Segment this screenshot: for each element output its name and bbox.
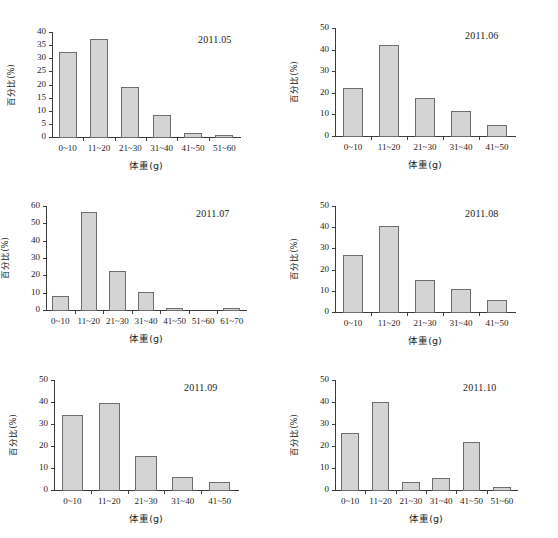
- bar: [415, 98, 436, 137]
- x-axis-tick: [443, 137, 444, 140]
- chart-panel-2011-07: 2011.070102030405060百分比(%)0~1011~2021~30…: [0, 178, 279, 358]
- y-axis-tick-label: 0: [303, 131, 329, 140]
- y-axis-tick-label: 5: [20, 119, 46, 128]
- y-axis-tick: [332, 93, 335, 94]
- bar: [138, 292, 155, 311]
- chart-panel-2011-06: 2011.0601020304050百分比(%)0~1011~2021~3031…: [279, 0, 558, 178]
- y-axis-tick: [49, 111, 52, 112]
- bar: [341, 433, 359, 491]
- bar: [379, 45, 400, 137]
- bar: [166, 308, 183, 311]
- x-axis-title: 体重(g): [106, 158, 186, 172]
- bar: [135, 456, 156, 491]
- x-axis-title: 体重(g): [385, 333, 465, 347]
- y-axis-tick-label: 20: [303, 88, 329, 97]
- plot-area: 2011.1001020304050百分比(%)0~1011~2021~3031…: [279, 358, 558, 538]
- y-axis-tick: [332, 114, 335, 115]
- x-axis-tick: [479, 137, 480, 140]
- bar: [109, 271, 126, 311]
- y-axis-tick-label: 20: [14, 270, 40, 279]
- bar: [62, 415, 83, 491]
- panel-title: 2011.09: [184, 382, 218, 393]
- x-axis-tick-label: 61~70: [213, 317, 250, 326]
- x-axis-tick: [132, 311, 133, 314]
- y-axis-tick-label: 20: [303, 265, 329, 274]
- x-axis-tick: [479, 313, 480, 316]
- x-axis-tick: [426, 491, 427, 494]
- y-axis-title: 百分比(%): [4, 59, 16, 111]
- y-axis-title: 百分比(%): [6, 409, 18, 461]
- y-axis-title: 百分比(%): [287, 56, 299, 108]
- y-axis-tick-label: 10: [303, 109, 329, 118]
- bar: [379, 226, 400, 313]
- y-axis-tick: [51, 380, 54, 381]
- bar: [153, 115, 171, 138]
- bar: [215, 135, 233, 138]
- y-axis-line: [52, 32, 53, 138]
- y-axis-tick: [332, 248, 335, 249]
- x-axis-tick-label: 51~60: [483, 497, 521, 506]
- bar: [343, 88, 364, 137]
- x-axis-tick: [365, 491, 366, 494]
- x-axis-tick: [371, 137, 372, 140]
- y-axis-tick-label: 30: [20, 53, 46, 62]
- y-axis-tick-label: 0: [303, 307, 329, 316]
- y-axis-tick: [49, 58, 52, 59]
- panel-title: 2011.07: [196, 208, 230, 219]
- bar: [415, 280, 436, 313]
- y-axis-tick: [332, 227, 335, 228]
- bar: [372, 402, 390, 491]
- x-axis-tick: [443, 313, 444, 316]
- x-axis-tick: [189, 311, 190, 314]
- y-axis-tick: [332, 312, 335, 313]
- x-axis-tick: [146, 138, 147, 141]
- plot-area: 2011.070102030405060百分比(%)0~1011~2021~30…: [0, 178, 279, 358]
- y-axis-tick: [332, 206, 335, 207]
- y-axis-tick-label: 30: [303, 243, 329, 252]
- y-axis-tick: [43, 310, 46, 311]
- y-axis-tick: [49, 32, 52, 33]
- x-axis-tick: [91, 491, 92, 494]
- x-axis-tick: [407, 313, 408, 316]
- y-axis-tick-label: 30: [22, 419, 48, 428]
- y-axis-tick-label: 40: [303, 45, 329, 54]
- y-axis-tick: [332, 446, 335, 447]
- bar: [184, 133, 202, 138]
- bar: [90, 39, 108, 138]
- y-axis-tick-label: 20: [22, 441, 48, 450]
- y-axis-tick: [43, 258, 46, 259]
- panel-title: 2011.05: [198, 34, 232, 45]
- x-axis-tick: [201, 491, 202, 494]
- x-axis-tick: [371, 313, 372, 316]
- y-axis-tick-label: 0: [303, 485, 329, 494]
- y-axis-tick-label: 35: [20, 40, 46, 49]
- y-axis-tick: [43, 206, 46, 207]
- y-axis-tick: [43, 241, 46, 242]
- chart-panel-2011-08: 2011.0801020304050百分比(%)0~1011~2021~3031…: [279, 178, 558, 358]
- bar: [121, 87, 139, 138]
- x-axis-tick: [75, 311, 76, 314]
- y-axis-title: 百分比(%): [287, 409, 299, 461]
- y-axis-tick-label: 50: [14, 218, 40, 227]
- y-axis-tick-label: 40: [22, 397, 48, 406]
- chart-panel-2011-09: 2011.0901020304050百分比(%)0~1011~2021~3031…: [0, 358, 279, 538]
- bar: [432, 478, 450, 491]
- x-axis-tick: [103, 311, 104, 314]
- y-axis-line: [335, 206, 336, 313]
- x-axis-tick: [217, 311, 218, 314]
- y-axis-tick: [51, 468, 54, 469]
- y-axis-tick-label: 15: [20, 93, 46, 102]
- bar: [59, 52, 77, 138]
- y-axis-tick-label: 40: [303, 222, 329, 231]
- y-axis-tick-label: 0: [20, 132, 46, 141]
- y-axis-tick: [43, 223, 46, 224]
- x-axis-tick: [83, 138, 84, 141]
- multi-panel-bar-chart-figure: 2011.050510152025303540百分比(%)0~1011~2021…: [0, 0, 558, 538]
- x-axis-tick-label: 41~50: [197, 497, 242, 506]
- x-axis-title: 体重(g): [106, 331, 186, 345]
- bar: [223, 308, 240, 311]
- y-axis-tick: [49, 98, 52, 99]
- x-axis-tick: [128, 491, 129, 494]
- x-axis-tick: [407, 137, 408, 140]
- x-axis-tick: [209, 138, 210, 141]
